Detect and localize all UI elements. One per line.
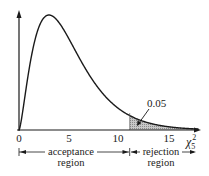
annotation-label: 0.05 xyxy=(147,98,166,109)
y-axis-arrow-icon xyxy=(17,10,22,18)
x-tick-5: 5 xyxy=(66,133,72,144)
rejection-line2: region xyxy=(139,157,183,168)
x-axis-label: χ52 xyxy=(186,132,196,152)
axis-superscript: 2 xyxy=(192,133,196,142)
axis-subscript: 5 xyxy=(191,142,195,151)
x-tick-0: 0 xyxy=(16,133,22,144)
density-curve xyxy=(19,15,199,130)
acceptance-line2: region xyxy=(45,157,97,168)
x-tick-10: 10 xyxy=(113,133,124,144)
rejection-line1: rejection xyxy=(139,146,183,157)
acceptance-line1: acceptance xyxy=(45,146,97,157)
acceptance-region-label: acceptance region xyxy=(45,146,97,168)
x-tick-15: 15 xyxy=(164,133,175,144)
rejection-region-label: rejection region xyxy=(139,146,183,168)
